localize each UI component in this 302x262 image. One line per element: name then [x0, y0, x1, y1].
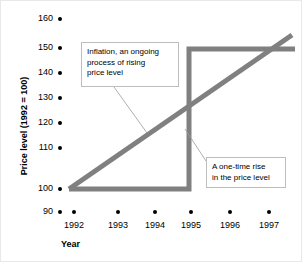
x-tick-dot-1997 — [267, 210, 271, 214]
y-tick-label-160: 160 — [19, 14, 53, 23]
x-tick-dot-1995 — [189, 210, 193, 214]
y-tick-dot-140 — [58, 71, 62, 75]
annotation-inflation: Inflation, an ongoing process of rising … — [81, 42, 179, 87]
y-tick-dot-90 — [58, 210, 62, 214]
x-tick-label-1992: 1992 — [54, 221, 94, 230]
x-tick-dot-1994 — [153, 210, 157, 214]
x-tick-label-1993: 1993 — [98, 221, 138, 230]
annotation-inflation-line2: process of rising — [87, 58, 173, 69]
y-axis-title: Price level (1992 = 100) — [19, 56, 29, 196]
y-tick-dot-150 — [58, 46, 62, 50]
y-tick-dot-110 — [58, 146, 62, 150]
leader-line-inflation — [114, 87, 147, 133]
y-tick-label-150: 150 — [19, 43, 53, 52]
x-axis-title: Year — [61, 239, 80, 249]
annotation-one-time-rise: A one-time rise in the price level — [206, 157, 286, 188]
x-tick-label-1997: 1997 — [249, 221, 289, 230]
x-tick-label-1994: 1994 — [135, 221, 175, 230]
y-tick-dot-130 — [58, 96, 62, 100]
x-tick-dot-1996 — [228, 210, 232, 214]
y-tick-label-90: 90 — [19, 207, 53, 216]
y-tick-dot-120 — [58, 121, 62, 125]
annotation-one-time-line2: in the price level — [212, 173, 280, 184]
y-tick-dot-160 — [58, 17, 62, 21]
x-tick-dot-1992 — [72, 210, 76, 214]
x-tick-dot-1993 — [116, 210, 120, 214]
x-tick-label-1995: 1995 — [171, 221, 211, 230]
chart-figure: 160 150 140 130 120 110 100 90 1992 1993… — [0, 0, 302, 262]
annotation-one-time-line1: A one-time rise — [212, 162, 280, 173]
annotation-inflation-line1: Inflation, an ongoing — [87, 47, 173, 58]
annotation-inflation-line3: price level — [87, 68, 173, 79]
x-tick-label-1996: 1996 — [210, 221, 250, 230]
y-tick-dot-100 — [58, 187, 62, 191]
